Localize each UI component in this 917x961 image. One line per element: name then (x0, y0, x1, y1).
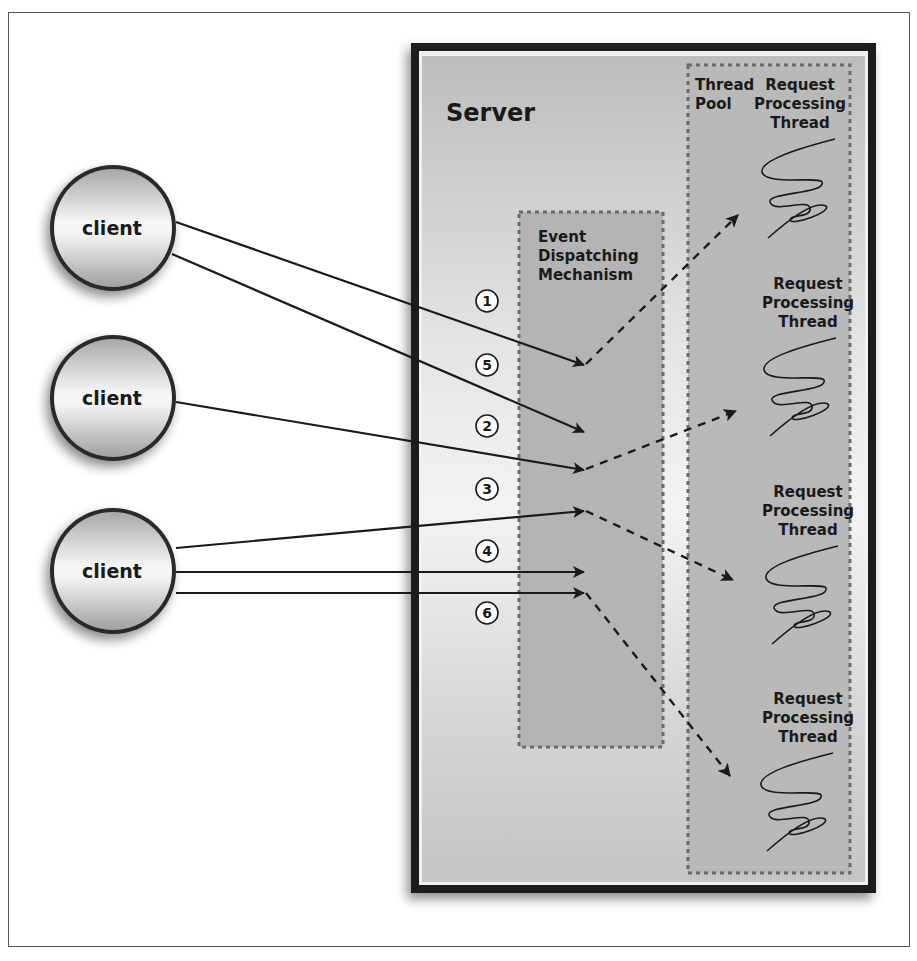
client-1-label: client (82, 217, 142, 239)
step-marker-1: 1 (476, 290, 498, 312)
client-3-label: client (82, 560, 142, 582)
step-1-label: 1 (482, 293, 492, 309)
dispatcher-label-line-1: Event (538, 228, 586, 246)
step-3-label: 3 (482, 481, 492, 497)
thread-pool-label-line-2: Pool (695, 95, 732, 113)
step-marker-5: 5 (476, 354, 498, 376)
step-marker-2: 2 (476, 415, 498, 437)
server-title: Server (446, 99, 535, 127)
dispatcher-label-line-3: Mechanism (538, 266, 633, 284)
thread-2-label-line-3: Thread (778, 313, 837, 331)
thread-3-label-line-3: Thread (778, 521, 837, 539)
thread-3-label-line-2: Processing (762, 502, 854, 520)
thread-4-label-line-3: Thread (778, 728, 837, 746)
step-2-label: 2 (482, 418, 492, 434)
step-6-label: 6 (482, 605, 492, 621)
client-2-label: client (82, 387, 142, 409)
thread-pool-label-line-1: Thread (695, 76, 754, 94)
step-marker-3: 3 (476, 478, 498, 500)
thread-4-label-line-2: Processing (762, 709, 854, 727)
thread-3-label-line-1: Request (773, 483, 842, 501)
dispatcher-label-line-2: Dispatching (538, 247, 639, 265)
step-5-label: 5 (482, 357, 492, 373)
step-marker-4: 4 (476, 540, 498, 562)
step-marker-6: 6 (476, 602, 498, 624)
thread-2-label-line-1: Request (773, 275, 842, 293)
thread-2-label-line-2: Processing (762, 294, 854, 312)
step-4-label: 4 (482, 543, 492, 559)
thread-1-label-line-3: Thread (770, 114, 829, 132)
thread-1-label-line-2: Processing (754, 95, 846, 113)
thread-1-label-line-1: Request (765, 76, 834, 94)
event-dispatching-region: Event Dispatching Mechanism (519, 212, 663, 747)
diagram-canvas: Server Event Dispatching Mechanism Threa… (0, 0, 917, 961)
thread-4-label-line-1: Request (773, 690, 842, 708)
